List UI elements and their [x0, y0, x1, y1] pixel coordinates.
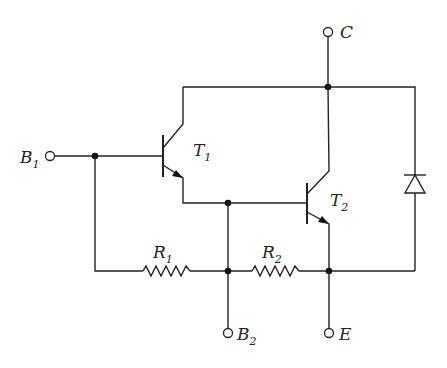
- label-b1: B1: [19, 147, 40, 171]
- wire-b1-to-r1: [95, 156, 143, 271]
- wire-collector-rail: [183, 87, 415, 175]
- transistor-t1: T1: [163, 87, 228, 203]
- label-t1: T1: [193, 140, 211, 164]
- emitter-arrow-icon: [318, 216, 329, 224]
- label-t2: T2: [330, 190, 348, 214]
- resistor-r2: R2: [252, 242, 299, 276]
- label-r1: R1: [152, 242, 173, 266]
- label-b2: B2: [236, 324, 257, 348]
- label-r2: R2: [261, 242, 282, 266]
- terminal-b1: B1: [19, 147, 55, 171]
- terminal-c: C: [324, 22, 354, 87]
- junction-b2: [225, 268, 232, 275]
- label-e: E: [338, 324, 352, 344]
- resistor-r1: R1: [143, 242, 190, 276]
- transistor-t2: T2: [307, 87, 348, 271]
- circuit-diagram: B1 T1 C T2 R1: [0, 0, 447, 368]
- diode: [404, 175, 426, 271]
- label-c: C: [340, 22, 353, 42]
